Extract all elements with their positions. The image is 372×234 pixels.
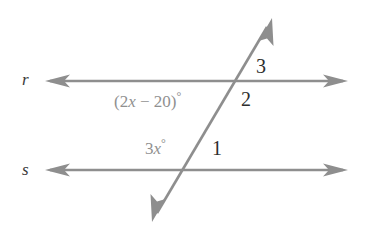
line-label-s: s [22,161,29,178]
expr-lower-variable: x [154,139,162,158]
transversal-segment [157,27,267,213]
line-r [45,75,348,88]
angle-expression-upper: (2x − 20)° [114,90,181,110]
geometry-diagram: r s 3 2 1 (2x − 20)° 3x° [0,0,372,234]
line-label-r: r [22,71,29,88]
degree-symbol-icon: ° [161,136,166,150]
expr-lower-open: 3 [145,139,154,158]
transversal-line [151,18,274,222]
transversal-bottom-arrowhead [151,194,166,222]
expr-upper-middle: − 20) [136,92,177,111]
line-s [45,164,348,177]
angle-label-1: 1 [212,138,222,158]
expr-upper-variable: x [128,92,136,111]
expr-upper-open: (2 [114,92,128,111]
degree-symbol-icon: ° [176,89,181,103]
diagram-canvas [0,0,372,234]
angle-expression-lower: 3x° [145,137,166,157]
angle-label-3: 3 [256,56,266,76]
transversal-top-arrowhead [259,18,274,46]
angle-label-2: 2 [241,89,251,109]
